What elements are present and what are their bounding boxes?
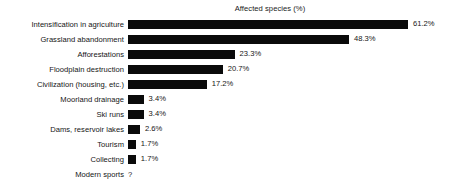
category-label: Grassland abandonment (0, 35, 124, 44)
category-label: Modern sports (0, 170, 124, 179)
bar-container (128, 65, 223, 75)
bar-container (128, 20, 408, 30)
chart-row: Floodplain destruction20.7% (0, 64, 452, 79)
value-label: 2.6% (145, 124, 162, 133)
bar-container (128, 125, 140, 135)
category-label: Tourism (0, 140, 124, 149)
bar-container (128, 35, 349, 45)
unknown-value-marker: ? (128, 170, 132, 179)
bar (128, 50, 235, 59)
value-label: 3.4% (149, 109, 166, 118)
bar (128, 110, 144, 119)
value-label: 1.7% (141, 154, 158, 163)
bar (128, 80, 207, 89)
chart-row: Afforestations23.3% (0, 49, 452, 64)
chart-row: Ski runs3.4% (0, 109, 452, 124)
chart-row: Dams, reservoir lakes2.6% (0, 124, 452, 139)
chart-row: Intensification in agriculture61.2% (0, 19, 452, 34)
chart-title: Affected species (%) (0, 4, 452, 13)
category-label: Ski runs (0, 110, 124, 119)
value-label: 61.2% (413, 19, 435, 28)
category-label: Collecting (0, 155, 124, 164)
bar-container (128, 50, 235, 60)
category-label: Floodplain destruction (0, 65, 124, 74)
bar (128, 35, 349, 44)
value-label: 17.2% (212, 79, 234, 88)
bar-container (128, 140, 136, 150)
category-label: Civilization (housing, etc.) (0, 80, 124, 89)
chart-row: Tourism1.7% (0, 139, 452, 154)
value-label: 48.3% (354, 34, 376, 43)
category-label: Dams, reservoir lakes (0, 125, 124, 134)
chart-row: Moorland drainage3.4% (0, 94, 452, 109)
bar-container (128, 95, 144, 105)
bar-container (128, 155, 136, 165)
value-label: 20.7% (228, 64, 250, 73)
value-label: 23.3% (240, 49, 262, 58)
value-label: 1.7% (141, 139, 158, 148)
chart-plot-area: Intensification in agriculture61.2%Grass… (0, 19, 452, 184)
bar (128, 95, 144, 104)
category-label: Intensification in agriculture (0, 20, 124, 29)
bar (128, 155, 136, 164)
bar (128, 20, 408, 29)
chart-row: Civilization (housing, etc.)17.2% (0, 79, 452, 94)
chart-row: Grassland abandonment48.3% (0, 34, 452, 49)
chart-row: Collecting1.7% (0, 154, 452, 169)
bar-container (128, 110, 144, 120)
value-label: 3.4% (149, 94, 166, 103)
bar (128, 140, 136, 149)
category-label: Moorland drainage (0, 95, 124, 104)
affected-species-bar-chart: Affected species (%) Intensification in … (0, 0, 452, 191)
chart-row: Modern sports? (0, 169, 452, 184)
bar (128, 125, 140, 134)
bar-container (128, 80, 207, 90)
chart-title-text: Affected species (%) (235, 4, 306, 13)
bar (128, 65, 223, 74)
category-label: Afforestations (0, 50, 124, 59)
